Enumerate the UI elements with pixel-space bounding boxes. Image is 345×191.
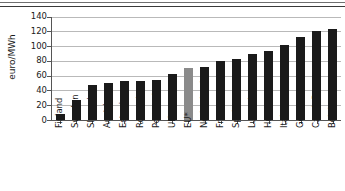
x-axis-tick-label: Austria <box>103 98 112 128</box>
x-axis-tick-label: UK <box>168 116 177 128</box>
y-axis-tick-label: 100 <box>31 42 47 51</box>
x-axis-tick-label: Belgium <box>328 93 337 128</box>
x-axis-tick-label: Germany <box>296 89 305 128</box>
x-axis-tick-label: Hungary <box>264 92 273 128</box>
y-axis-tick-label: 120 <box>31 27 47 36</box>
x-axis-tick-label: Sweden <box>71 94 80 128</box>
x-axis-tick-label: Spain <box>232 104 241 128</box>
x-axis-tick-label: Luxembourg <box>248 75 257 128</box>
x-axis-tick-label: Italy <box>280 110 289 128</box>
x-axis-tick-label: EU* <box>184 112 193 128</box>
y-axis-tick-labels: 020406080100120140 <box>0 0 47 191</box>
x-axis-tick-label: Czech Rep. <box>312 81 321 128</box>
y-axis-tick-label: 40 <box>36 86 47 95</box>
x-axis-tick-label: Estonia <box>119 97 128 128</box>
y-axis-tick-label: 80 <box>36 56 47 65</box>
x-axis-tick-label: Finland <box>55 98 64 128</box>
x-axis-tick-label: Portugal <box>152 93 161 128</box>
x-axis-tick-label: Slovenia <box>87 92 96 128</box>
x-axis-tick-label: Romania <box>136 91 145 128</box>
x-axis-tick-label: Netherlands <box>200 76 209 128</box>
bar <box>168 74 177 120</box>
x-axis-tick-label: France <box>216 100 225 128</box>
y-axis-tick-label: 20 <box>36 101 47 110</box>
y-axis-tick-label: 60 <box>36 71 47 80</box>
y-axis-tick-label: 140 <box>31 12 47 21</box>
bar-chart: euro/MWh 020406080100120140 FinlandSwede… <box>0 0 345 191</box>
